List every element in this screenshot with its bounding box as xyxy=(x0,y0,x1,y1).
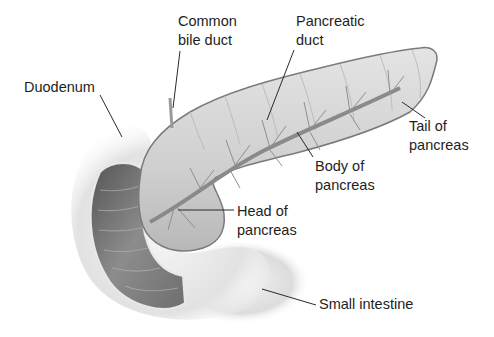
label-common-bile-duct: Common bile duct xyxy=(178,12,237,50)
label-line: Small intestine xyxy=(319,295,413,314)
label-line: pancreas xyxy=(237,221,297,240)
label-line: Duodenum xyxy=(24,78,95,97)
label-line: bile duct xyxy=(178,31,237,50)
pancreas-diagram: Common bile duct Pancreatic duct Duodenu… xyxy=(0,0,494,337)
label-pancreatic-duct: Pancreatic duct xyxy=(296,12,365,50)
label-tail-of-pancreas: Tail of pancreas xyxy=(409,117,469,155)
label-head-of-pancreas: Head of pancreas xyxy=(237,202,297,240)
label-line: pancreas xyxy=(409,136,469,155)
label-line: Pancreatic xyxy=(296,12,365,31)
label-small-intestine: Small intestine xyxy=(319,295,413,314)
label-line: pancreas xyxy=(315,176,375,195)
label-line: Common xyxy=(178,12,237,31)
label-line: Body of xyxy=(315,157,375,176)
label-body-of-pancreas: Body of pancreas xyxy=(315,157,375,195)
label-duodenum: Duodenum xyxy=(24,78,95,97)
label-line: Tail of xyxy=(409,117,469,136)
label-line: Head of xyxy=(237,202,297,221)
pancreas-illustration xyxy=(0,0,494,337)
label-line: duct xyxy=(296,31,365,50)
